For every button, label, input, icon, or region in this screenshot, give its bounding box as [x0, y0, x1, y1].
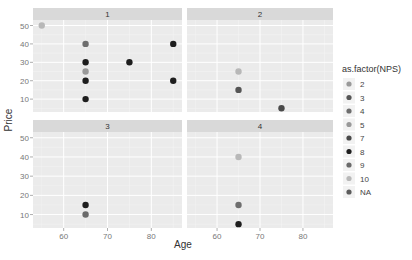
y-tick-label: 20 [20, 77, 29, 86]
legend-label: 9 [360, 161, 365, 170]
y-tick-label: 50 [20, 22, 29, 31]
data-point [235, 221, 241, 227]
y-tick-label: 10 [20, 211, 29, 220]
x-tick-label: 70 [103, 232, 112, 241]
data-point [82, 41, 88, 47]
legend-key-icon [346, 176, 351, 181]
y-tick-label: 40 [20, 153, 29, 162]
legend-item-4: 4 [343, 105, 365, 117]
legend-label: 7 [360, 134, 365, 143]
legend-item-5: 5 [343, 119, 365, 131]
data-point [170, 41, 176, 47]
legend-label: 2 [360, 80, 365, 89]
y-axis-title: Price [3, 108, 14, 131]
x-tick-label: 60 [213, 232, 222, 241]
data-point [82, 59, 88, 65]
legend-key-icon [346, 81, 351, 86]
legend-key-icon [346, 135, 351, 140]
facet-strip-label: 3 [105, 122, 110, 131]
data-point [82, 202, 88, 208]
faceted-scatter-chart: 1234 10203040501020304050 607080607080 A… [0, 0, 412, 260]
legend-item-7: 7 [343, 132, 365, 144]
legend: as.factor(NPS) 234578910NA [342, 64, 401, 198]
legend-item-3: 3 [343, 92, 365, 104]
facet-panel-3: 3 [33, 120, 182, 228]
x-tick-label: 80 [147, 232, 156, 241]
y-tick-label: 20 [20, 191, 29, 200]
data-point [235, 154, 241, 160]
y-tick-label: 30 [20, 172, 29, 181]
legend-label: 8 [360, 148, 365, 157]
facet-panel-2: 2 [187, 8, 333, 112]
legend-key-icon [346, 122, 351, 127]
legend-item-2: 2 [343, 78, 365, 90]
legend-label: 5 [360, 121, 365, 130]
data-point [278, 105, 284, 111]
data-point [82, 211, 88, 217]
legend-keys: 234578910NA [343, 78, 372, 198]
facet-panel-4: 4 [187, 120, 333, 228]
facet-panels: 1234 [33, 8, 333, 228]
legend-title: as.factor(NPS) [342, 64, 401, 74]
data-point [235, 87, 241, 93]
legend-label: 3 [360, 94, 365, 103]
facet-strip-label: 2 [258, 10, 263, 19]
data-point [39, 22, 45, 28]
legend-key-icon [346, 162, 351, 167]
data-point [82, 96, 88, 102]
data-point [82, 78, 88, 84]
legend-item-8: 8 [343, 146, 365, 158]
y-tick-label: 40 [20, 40, 29, 49]
legend-label: 4 [360, 107, 365, 116]
x-axis-title: Age [174, 239, 192, 250]
data-point [235, 68, 241, 74]
data-point [82, 68, 88, 74]
legend-item-10: 10 [343, 173, 369, 185]
legend-key-icon [346, 95, 351, 100]
data-point [126, 59, 132, 65]
facet-panel-1: 1 [33, 8, 182, 112]
x-tick-label: 80 [298, 232, 307, 241]
facet-strip-label: 4 [258, 122, 263, 131]
legend-key-icon [346, 149, 351, 154]
data-point [235, 202, 241, 208]
x-tick-label: 70 [256, 232, 265, 241]
legend-key-icon [346, 108, 351, 113]
x-tick-label: 60 [59, 232, 68, 241]
legend-key-icon [346, 189, 351, 194]
y-tick-label: 30 [20, 58, 29, 67]
data-point [170, 78, 176, 84]
y-tick-label: 10 [20, 95, 29, 104]
legend-item-9: 9 [343, 159, 365, 171]
legend-label: 10 [360, 175, 369, 184]
legend-item-NA: NA [343, 186, 372, 198]
y-tick-label: 50 [20, 134, 29, 143]
y-axes: 10203040501020304050 [20, 22, 33, 220]
legend-label: NA [360, 188, 372, 197]
facet-strip-label: 1 [105, 10, 110, 19]
